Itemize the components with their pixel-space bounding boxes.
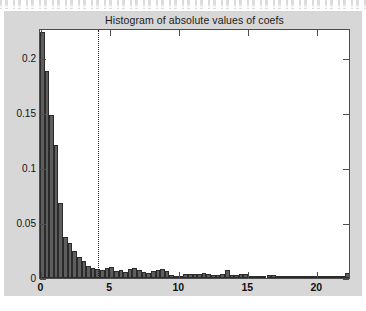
y-axis-tick (343, 114, 349, 115)
x-axis-tick-label: 5 (106, 281, 112, 293)
plot-axes (39, 29, 350, 279)
y-axis-tick (343, 59, 349, 60)
histogram-bar (345, 273, 349, 278)
x-axis-tick (317, 30, 318, 36)
y-axis-tick (40, 169, 46, 170)
threshold-line-marker (98, 30, 99, 278)
x-axis-tick (179, 272, 180, 278)
screenshot-root: Histogram of absolute values of coefs 00… (0, 0, 366, 311)
y-axis-tick (343, 224, 349, 225)
x-axis-tick-label: 0 (37, 281, 43, 293)
y-axis-tick-label: 0 (30, 272, 36, 283)
x-axis-tick (248, 272, 249, 278)
y-axis-tick-label: 0.1 (22, 162, 36, 173)
y-axis-tick (343, 279, 349, 280)
matlab-figure: Histogram of absolute values of coefs 00… (4, 11, 362, 296)
y-axis-tick-label: 0.05 (17, 217, 36, 228)
x-axis-tick (41, 272, 42, 278)
x-axis-tick-label: 10 (172, 281, 184, 293)
y-axis-tick (343, 169, 349, 170)
x-axis-tick (248, 30, 249, 36)
y-axis-labels: 00.050.10.150.2 (4, 29, 36, 279)
chart-title: Histogram of absolute values of coefs (39, 14, 350, 26)
y-axis-tick-label: 0.15 (17, 108, 36, 119)
x-axis-tick-label: 15 (241, 281, 253, 293)
y-axis-tick-label: 0.2 (22, 53, 36, 64)
scan-artifact-strip (0, 0, 366, 9)
x-axis-labels: 05101520 (39, 281, 350, 295)
y-axis-tick (40, 224, 46, 225)
y-axis-tick (40, 279, 46, 280)
x-axis-tick (41, 30, 42, 36)
x-axis-tick (110, 30, 111, 36)
x-axis-tick (110, 272, 111, 278)
y-axis-tick (40, 59, 46, 60)
y-axis-tick (40, 114, 46, 115)
plot-surface (40, 30, 349, 278)
x-axis-tick (317, 272, 318, 278)
x-axis-tick (179, 30, 180, 36)
x-axis-tick-label: 20 (310, 281, 322, 293)
